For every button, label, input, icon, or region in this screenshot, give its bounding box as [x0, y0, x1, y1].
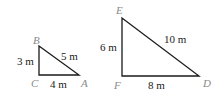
triangle-def: E F D 6 m 8 m 10 m: [100, 4, 211, 91]
triangle-abc: B C A 3 m 4 m 5 m: [17, 34, 88, 90]
side-ca-label: 4 m: [50, 78, 67, 90]
triangle-def-shape: [122, 18, 199, 76]
side-bc-label: 3 m: [17, 55, 34, 67]
vertex-a-label: A: [80, 77, 88, 89]
vertex-e-label: E: [115, 4, 123, 16]
vertex-f-label: F: [113, 79, 121, 91]
side-de-label: 10 m: [164, 33, 187, 45]
similar-triangles-diagram: B C A 3 m 4 m 5 m E F D 6 m 8 m 10 m: [0, 0, 221, 91]
side-ab-label: 5 m: [61, 50, 78, 62]
side-ef-label: 6 m: [100, 41, 117, 53]
vertex-d-label: D: [202, 77, 211, 89]
vertex-b-label: B: [33, 34, 40, 46]
side-fd-label: 8 m: [148, 79, 165, 91]
vertex-c-label: C: [31, 77, 39, 89]
